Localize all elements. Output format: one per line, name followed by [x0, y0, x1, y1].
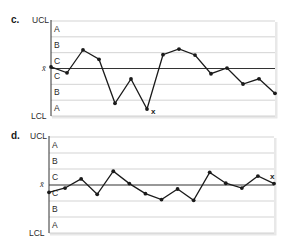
ucl-label: UCL	[30, 131, 47, 141]
control-chart-c: ABCCBAUCLLCLx̄c.x	[0, 0, 292, 124]
zone-label-a: A	[52, 140, 58, 150]
data-point	[177, 47, 181, 51]
control-chart-d-svg: ABCCBAUCLLCLx̄d.x	[0, 124, 292, 248]
data-point	[47, 190, 51, 194]
data-point	[192, 198, 196, 202]
data-point	[256, 174, 260, 178]
zone-label-b: B	[54, 40, 60, 50]
data-point	[127, 182, 131, 186]
lcl-label: LCL	[31, 111, 47, 121]
data-point	[225, 66, 229, 70]
data-point	[160, 198, 164, 202]
data-point	[257, 77, 261, 81]
zone-label-a: A	[54, 24, 60, 34]
data-point	[161, 53, 165, 57]
data-point	[111, 169, 115, 173]
data-point	[81, 48, 85, 52]
zone-label-b: B	[54, 87, 60, 97]
mean-label: x̄	[39, 179, 45, 189]
zone-label-c: C	[52, 172, 58, 182]
data-point	[241, 82, 245, 86]
control-chart-d: ABCCBAUCLLCLx̄d.x	[0, 124, 292, 248]
data-point	[97, 57, 101, 61]
zone-label-b: B	[52, 156, 58, 166]
control-chart-c-svg: ABCCBAUCLLCLx̄c.x	[0, 0, 292, 124]
panel-label: c.	[11, 14, 20, 25]
data-point	[113, 101, 117, 105]
mean-label: x̄	[41, 63, 47, 73]
flag-annotation: x	[270, 172, 275, 181]
data-point	[63, 186, 67, 190]
data-point	[209, 72, 213, 76]
data-point	[176, 187, 180, 191]
zone-label-b: B	[52, 204, 58, 214]
data-point	[144, 192, 148, 196]
data-point	[145, 107, 149, 111]
flag-annotation: x	[151, 107, 156, 116]
data-point	[129, 77, 133, 81]
data-point	[224, 181, 228, 185]
data-point	[95, 192, 99, 196]
lcl-label: LCL	[29, 228, 45, 238]
zone-label-a: A	[54, 103, 60, 113]
data-point	[193, 53, 197, 57]
panel-label: d.	[11, 130, 20, 141]
data-point	[49, 65, 53, 69]
data-point	[240, 186, 244, 190]
zone-label-c: C	[54, 71, 60, 81]
zone-label-a: A	[52, 220, 58, 230]
zone-label-c: C	[54, 56, 60, 66]
data-point	[272, 182, 276, 186]
data-point	[65, 71, 69, 75]
ucl-label: UCL	[32, 15, 49, 25]
data-point	[208, 170, 212, 174]
data-point	[273, 91, 277, 95]
data-point	[79, 177, 83, 181]
